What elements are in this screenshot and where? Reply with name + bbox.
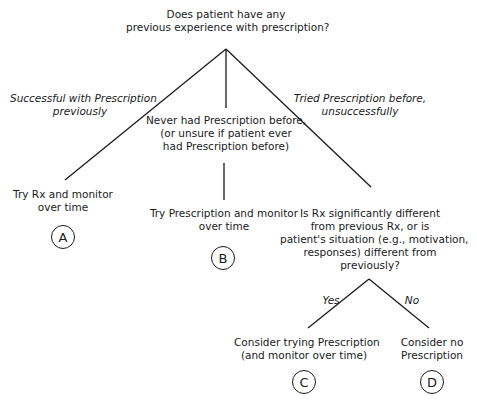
branch-right-line1: Tried Prescription before, <box>290 92 430 105</box>
outcome-c-line2: (and monitor over time) <box>234 349 374 362</box>
root-question-line1: Does patient have any <box>126 8 326 21</box>
root-question-line2: previous experience with prescription? <box>126 21 326 34</box>
yes-label: Yes <box>319 294 343 307</box>
subquestion: Is Rx significantly different from previ… <box>280 207 460 272</box>
root-question: Does patient have any previous experienc… <box>126 8 326 34</box>
outcome-d-line2: Prescription <box>397 349 467 362</box>
outcome-a-line2: over time <box>8 201 118 214</box>
outcome-c-badge: C <box>292 370 316 394</box>
outcome-a-badge: A <box>51 225 75 249</box>
subquestion-line1: Is Rx significantly different <box>280 207 460 220</box>
branch-middle-line3: had Prescription before) <box>146 140 306 153</box>
outcome-d-badge: D <box>420 370 444 394</box>
outcome-c-text: Consider trying Prescription (and monito… <box>234 336 374 362</box>
subquestion-line5: previously? <box>280 259 460 272</box>
branch-middle-line2: (or unsure if patient ever <box>146 127 306 140</box>
subquestion-line2: from previous Rx, or is <box>280 220 460 233</box>
subquestion-line4: responses) different from <box>280 246 460 259</box>
no-label: No <box>402 294 422 307</box>
outcome-d-line1: Consider no <box>397 336 467 349</box>
branch-left-line1: Successful with Prescription <box>10 92 150 105</box>
branch-right-label: Tried Prescription before, unsuccessfull… <box>290 92 430 118</box>
outcome-b-badge: B <box>211 246 235 270</box>
branch-middle-label: Never had Prescription before, (or unsur… <box>146 114 306 153</box>
outcome-c-line1: Consider trying Prescription <box>234 336 374 349</box>
branch-right-line2: unsuccessfully <box>290 105 430 118</box>
branch-left-line2: previously <box>10 105 150 118</box>
outcome-d-text: Consider no Prescription <box>397 336 467 362</box>
branch-left-label: Successful with Prescription previously <box>10 92 150 118</box>
outcome-a-text: Try Rx and monitor over time <box>8 188 118 214</box>
subquestion-line3: patient's situation (e.g., motivation, <box>280 233 460 246</box>
outcome-a-line1: Try Rx and monitor <box>8 188 118 201</box>
branch-middle-line1: Never had Prescription before, <box>146 114 306 127</box>
